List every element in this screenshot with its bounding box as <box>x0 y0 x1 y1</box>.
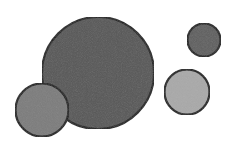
top-right-circle <box>188 24 221 57</box>
circles-diagram <box>0 0 245 147</box>
small-left-circle <box>16 84 69 137</box>
light-right-circle <box>165 70 210 115</box>
